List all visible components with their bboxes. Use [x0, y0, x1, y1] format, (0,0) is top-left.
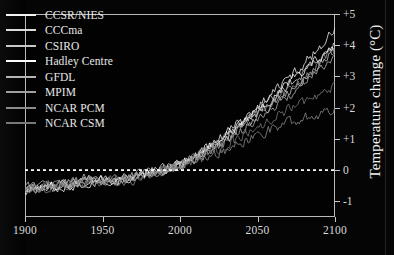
legend-label: CCSR/NIES: [45, 9, 104, 21]
legend: CCSR/NIESCCCmaCSIROHadley CentreGFDLMPIM…: [6, 7, 146, 131]
legend-label: GFDL: [45, 71, 75, 83]
legend-swatch-icon: [6, 122, 36, 124]
legend-label: Hadley Centre: [45, 55, 113, 67]
legend-label: NCAR CSM: [45, 117, 105, 129]
y-tick-mark: [335, 108, 340, 109]
y-tick-mark: [335, 201, 340, 202]
legend-item: Hadley Centre: [6, 54, 146, 70]
legend-swatch-icon: [6, 91, 36, 93]
y-tick-label: -1: [343, 195, 353, 207]
y-tick-label: +4: [343, 39, 355, 51]
legend-swatch-icon: [6, 76, 36, 78]
x-tick-mark: [335, 217, 336, 222]
climate-projection-chart: 19001950200020502100 +5+4+3+2+10-1 Tempe…: [0, 0, 394, 255]
legend-item: NCAR PCM: [6, 100, 146, 116]
x-tick-mark: [103, 217, 104, 222]
x-tick-mark: [25, 217, 26, 222]
legend-item: CCCma: [6, 23, 146, 39]
x-tick-label: 2050: [246, 224, 270, 236]
legend-item: CSIRO: [6, 38, 146, 54]
y-tick-label: +5: [343, 8, 355, 20]
y-tick-label: 0: [343, 164, 349, 176]
legend-label: NCAR PCM: [45, 102, 105, 114]
legend-swatch-icon: [6, 14, 36, 16]
legend-label: MPIM: [45, 86, 76, 98]
x-tick-label: 2000: [168, 224, 192, 236]
y-tick-mark: [335, 45, 340, 46]
y-axis-title: Temperature change (°C): [360, 0, 390, 203]
y-tick-label: +3: [343, 70, 355, 82]
legend-swatch-icon: [6, 107, 36, 109]
legend-swatch-icon: [6, 29, 36, 31]
x-tick-label: 2100: [323, 224, 347, 236]
y-tick-mark: [335, 14, 340, 15]
legend-swatch-icon: [6, 60, 36, 62]
legend-item: NCAR CSM: [6, 116, 146, 132]
y-tick-label: +2: [343, 102, 355, 114]
y-tick-mark: [335, 76, 340, 77]
legend-swatch-icon: [6, 45, 36, 47]
legend-item: GFDL: [6, 69, 146, 85]
legend-item: MPIM: [6, 85, 146, 101]
x-tick-label: 1950: [91, 224, 115, 236]
x-tick-label: 1900: [13, 224, 37, 236]
legend-label: CCCma: [45, 24, 83, 36]
x-tick-mark: [180, 217, 181, 222]
x-tick-mark: [258, 217, 259, 222]
legend-label: CSIRO: [45, 40, 79, 52]
y-tick-label: +1: [343, 133, 355, 145]
y-tick-mark: [335, 170, 340, 171]
y-tick-mark: [335, 139, 340, 140]
legend-item: CCSR/NIES: [6, 7, 146, 23]
